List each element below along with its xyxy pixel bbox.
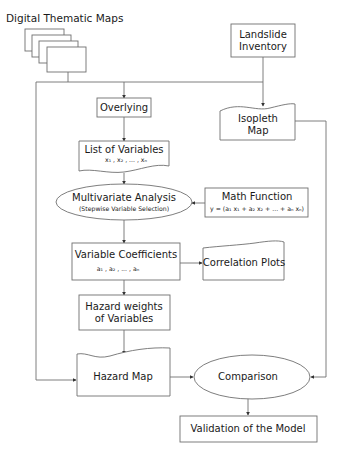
node-validation-of-the-model: Validation of the Model (180, 416, 317, 442)
node-hazard-weights: Hazard weights of Variables (79, 295, 170, 330)
isopleth-map-line1: Isopleth (238, 113, 278, 124)
landslide-inventory-line1: Landslide (239, 29, 287, 40)
multivariate-analysis-label: Multivariate Analysis (72, 192, 176, 203)
node-isopleth-map: Isopleth Map (220, 104, 295, 140)
math-function-formula: y = (a₁ x₁ + a₂ x₂ + ... + aₙ xₙ) (210, 205, 304, 213)
node-math-function: Math Function y = (a₁ x₁ + a₂ x₂ + ... +… (205, 188, 308, 217)
landslide-inventory-line2: Inventory (239, 41, 287, 52)
edge-maps-to-hazard-map (36, 82, 76, 380)
variable-coefficients-label: Variable Coefficients (75, 249, 178, 260)
isopleth-map-line2: Map (247, 125, 268, 136)
comparison-label: Comparison (218, 371, 278, 382)
hazard-weights-line2: of Variables (95, 313, 154, 324)
node-hazard-map: Hazard Map (77, 348, 170, 396)
hazard-weights-line1: Hazard weights (85, 301, 162, 312)
math-function-label: Math Function (222, 191, 293, 202)
node-list-of-variables: List of Variables x₁ , x₂ , ... , xₙ (79, 141, 169, 172)
node-landslide-inventory: Landslide Inventory (231, 24, 295, 57)
list-of-variables-sub: x₁ , x₂ , ... , xₙ (105, 156, 148, 163)
node-overlying: Overlying (97, 98, 151, 117)
hazard-map-label: Hazard Map (93, 371, 153, 382)
edge-isopleth-to-comparison (295, 121, 326, 377)
node-multivariate-analysis: Multivariate Analysis (Stepwise Variable… (56, 184, 192, 220)
digital-maps-label: Digital Thematic Maps (6, 12, 123, 24)
list-of-variables-label: List of Variables (84, 144, 163, 155)
overlying-label: Overlying (100, 102, 148, 113)
node-variable-coefficients: Variable Coefficients a₁ , a₂ , ... , aₙ (72, 243, 180, 280)
correlation-plots-label: Correlation Plots (203, 257, 285, 268)
node-comparison: Comparison (194, 355, 310, 399)
variable-coefficients-sub: a₁ , a₂ , ... , aₙ (97, 265, 140, 272)
validation-label: Validation of the Model (191, 423, 306, 434)
flowchart-diagram: Digital Thematic Maps Landslide Inventor… (0, 0, 338, 453)
multivariate-analysis-sub: (Stepwise Variable Selection) (79, 205, 169, 213)
node-correlation-plots: Correlation Plots (203, 241, 285, 280)
stacked-maps-icon (25, 29, 86, 72)
node-digital-thematic-maps: Digital Thematic Maps (6, 12, 123, 72)
